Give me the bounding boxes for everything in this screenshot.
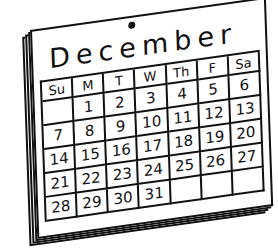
day-cell: 30 [108, 185, 140, 213]
calendar-page: December Su M T W Th F Sa 1 2 3 4 5 6 7 … [30, 0, 273, 239]
day-cell [202, 172, 234, 200]
calendar-illustration: December Su M T W Th F Sa 1 2 3 4 5 6 7 … [0, 0, 278, 251]
day-cell [233, 167, 265, 195]
day-grid: Su M T W Th F Sa 1 2 3 4 5 6 7 8 9 10 11… [40, 50, 265, 222]
day-cell: 29 [77, 189, 109, 217]
hanging-hole-icon [128, 21, 135, 29]
day-cell [170, 176, 202, 204]
wall-calendar: December Su M T W Th F Sa 1 2 3 4 5 6 7 … [30, 0, 269, 239]
day-cell: 31 [139, 180, 171, 208]
day-cell: 28 [46, 194, 78, 222]
